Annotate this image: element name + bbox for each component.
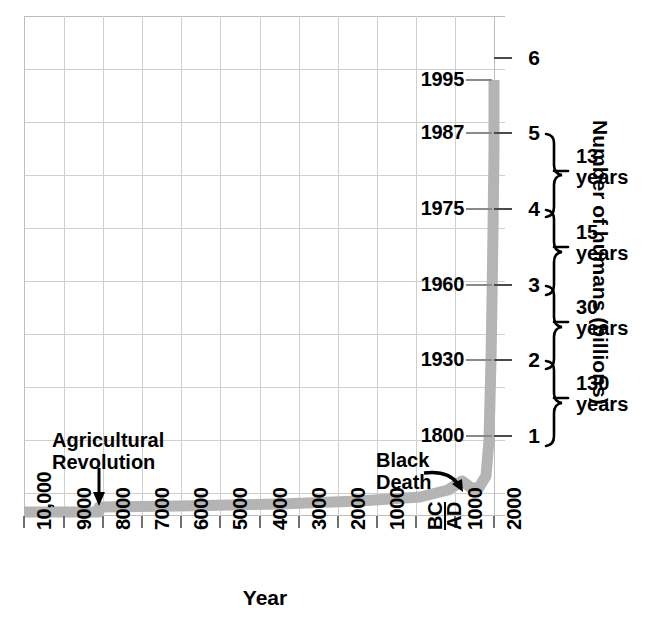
annotation-agricultural-revolution: Agricultural Revolution <box>52 429 164 473</box>
x-tick-label-10000: 10,000 <box>33 472 56 530</box>
gridline-horizontal <box>24 175 505 176</box>
gridline-horizontal <box>24 387 505 388</box>
x-tick-label-1000ad: 1000 <box>464 488 487 531</box>
gridline-vertical <box>299 16 300 516</box>
y-axis-title: Number of humans (billions) <box>588 120 612 450</box>
milestone-label-1800: 1800 <box>378 425 464 445</box>
milestone-label-1960: 1960 <box>378 274 464 294</box>
gridline-vertical <box>181 16 182 516</box>
y-tick-label-6: 6 <box>514 47 540 68</box>
gridline-horizontal <box>24 493 505 494</box>
gridline-axis-right <box>494 16 495 516</box>
x-tick-label-6000: 6000 <box>190 488 213 531</box>
x-tick-label-3000: 3000 <box>308 488 331 531</box>
y-tick-label-4: 4 <box>514 198 540 219</box>
milestone-label-1930: 1930 <box>378 349 464 369</box>
x-tick-label-7000: 7000 <box>151 488 174 531</box>
gridline-horizontal <box>24 334 505 335</box>
gridline-vertical <box>24 16 25 516</box>
gridline-horizontal <box>24 16 505 17</box>
annotation-line-2: Revolution <box>52 451 155 473</box>
x-tick-label-bc-ad: BC AD <box>427 502 466 530</box>
annotation-line-1: Black <box>376 449 429 471</box>
y-tick-label-5: 5 <box>514 122 540 143</box>
gridline-horizontal <box>24 228 505 229</box>
x-tick-label-2000ad: 2000 <box>503 488 526 531</box>
milestone-label-1975: 1975 <box>378 198 464 218</box>
gridline-vertical <box>220 16 221 516</box>
annotation-line-1: Agricultural <box>52 429 164 451</box>
x-tick-label-2000bc: 2000 <box>347 488 370 531</box>
x-tick-label-9000: 9000 <box>73 488 96 531</box>
y-tick-label-2: 2 <box>514 349 540 370</box>
y-tick-label-3: 3 <box>514 274 540 295</box>
milestone-label-1987: 1987 <box>378 122 464 142</box>
gridline-vertical <box>338 16 339 516</box>
chart-figure: 6 5 4 3 2 1 1995 1987 1975 1960 1930 180… <box>0 0 660 626</box>
doubling-time-brackets <box>546 134 568 446</box>
x-tick-label-1000bc: 1000 <box>386 488 409 531</box>
y-tick-label-1: 1 <box>514 425 540 446</box>
x-tick-label-8000: 8000 <box>112 488 135 531</box>
milestone-label-1995: 1995 <box>378 69 464 89</box>
era-label-ad: AD <box>446 502 463 530</box>
x-tick-label-4000: 4000 <box>269 488 292 531</box>
gridline-vertical <box>260 16 261 516</box>
x-tick-label-5000: 5000 <box>229 488 252 531</box>
x-axis-title: Year <box>205 586 325 610</box>
